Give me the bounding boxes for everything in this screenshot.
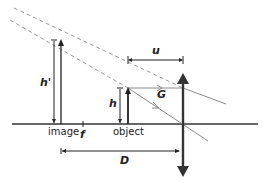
u-arrow-right-icon [179, 58, 183, 62]
image-label: image [48, 126, 79, 137]
ray-refracted [183, 88, 226, 104]
d-arrow-left-icon [62, 149, 66, 153]
lens-top-arrow-icon [177, 73, 189, 84]
h-dimension-arrow-icon [118, 119, 122, 123]
angle-label: G [157, 88, 166, 101]
image-arrowhead-icon [58, 39, 64, 46]
lens-bottom-arrow-icon [177, 166, 189, 177]
image-height-label: h' [40, 76, 51, 89]
image-distance-label: D [120, 154, 129, 167]
d-arrow-right-icon [175, 149, 180, 153]
object-distance-label: u [152, 44, 160, 57]
u-arrow-left-icon [128, 58, 132, 62]
focal-label: f [80, 128, 86, 141]
h-prime-arrow-icon [52, 119, 56, 123]
object-height-label: h [109, 97, 117, 110]
object-label: object [113, 126, 144, 137]
thin-lens-diagram: h' h u G image f object D [0, 0, 263, 183]
